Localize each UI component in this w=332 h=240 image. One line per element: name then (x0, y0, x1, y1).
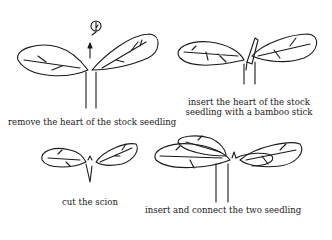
caption-insert-bamboo: insert the heart of the stock seedling w… (182, 97, 316, 117)
caption-insert-bamboo-line1: insert the heart of the stock (182, 97, 316, 107)
caption-cut-scion: cut the scion (62, 197, 118, 207)
connected-seedlings-panel (155, 136, 302, 202)
caption-connect-seedlings: insert and connect the two seedling (145, 205, 301, 215)
scion-panel (42, 144, 137, 182)
stock-seedling-panel-2 (178, 34, 317, 84)
stock-seedling-panel-1 (18, 21, 158, 108)
caption-insert-bamboo-line2: seedling with a bamboo stick (182, 107, 316, 117)
caption-remove-heart: remove the heart of the stock seedling (8, 117, 176, 127)
